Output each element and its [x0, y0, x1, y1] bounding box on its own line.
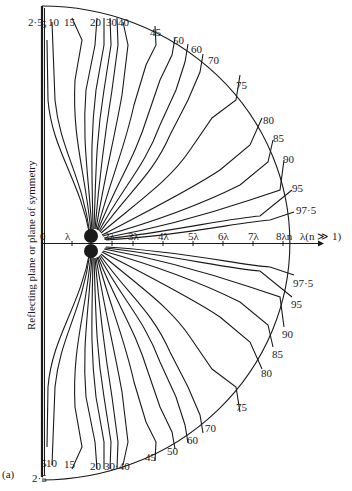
- source-region: [84, 229, 98, 243]
- contour-diagram: 0 λ 2λ 3λ 4λ 5λ 6λ 7λ 8λn λ(n ≫ 1) 2·5 5…: [0, 0, 352, 491]
- plane-label: Reflecting plane or plane of symmetry: [25, 160, 37, 330]
- level-label: 30: [106, 16, 118, 28]
- level-label: 10: [46, 457, 58, 469]
- level-label: 45: [150, 26, 162, 38]
- level-label: 70: [205, 422, 217, 434]
- tick-8: 8λn: [276, 230, 293, 242]
- level-label: 60: [187, 434, 199, 446]
- tick-5: 5λ: [188, 230, 200, 242]
- tick-2: 2λ: [104, 230, 116, 242]
- tick-1: λ: [65, 230, 71, 242]
- upper-level-labels: 2·5 5 10 15 20 30 40 45 50 60 70 75 80 8…: [28, 16, 317, 216]
- tick-4: 4λ: [158, 230, 170, 242]
- level-label: 97·5: [296, 204, 317, 216]
- level-label: 50: [173, 34, 185, 46]
- level-label: 90: [282, 328, 294, 340]
- level-label: 95: [291, 298, 303, 310]
- level-label: 70: [208, 54, 220, 66]
- tick-inf: λ(n ≫ 1): [300, 230, 341, 243]
- upper-contours: [47, 18, 294, 240]
- level-label: 20: [90, 460, 102, 472]
- level-label: 2·5: [32, 472, 47, 484]
- level-label: 5: [41, 18, 47, 30]
- level-label: 20: [90, 16, 102, 28]
- level-label: 40: [118, 16, 130, 28]
- tick-0: 0: [40, 230, 46, 242]
- lower-contours: [47, 247, 294, 469]
- level-label: 50: [167, 445, 179, 457]
- level-label: 97·5: [293, 277, 314, 289]
- level-label: 15: [64, 16, 76, 28]
- tick-7: 7λ: [248, 230, 260, 242]
- level-label: 85: [273, 132, 285, 144]
- level-label: 75: [236, 79, 248, 91]
- level-label: 15: [64, 458, 76, 470]
- level-label: 10: [48, 16, 60, 28]
- level-label: 80: [261, 367, 273, 379]
- level-label: 90: [283, 153, 295, 165]
- level-label: 45: [145, 451, 157, 463]
- level-label: 80: [263, 114, 275, 126]
- panel-label: (a): [2, 468, 15, 481]
- level-label: 75: [236, 401, 248, 413]
- level-label: 30·40: [104, 460, 130, 472]
- level-label: 60: [191, 43, 203, 55]
- tick-3: 3λ: [128, 230, 140, 242]
- tick-6: 6λ: [218, 230, 230, 242]
- level-label: 85: [272, 348, 284, 360]
- level-label: 95: [292, 182, 304, 194]
